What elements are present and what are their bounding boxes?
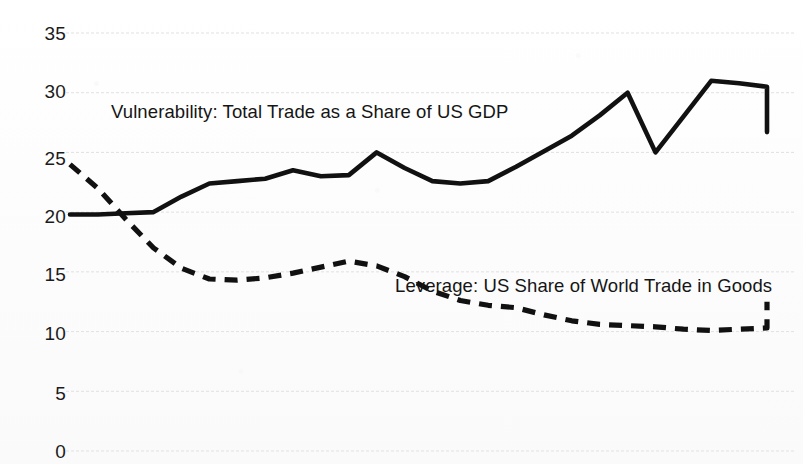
- y-axis-tick-20: 20: [20, 207, 66, 226]
- y-axis-tick-15: 15: [20, 265, 66, 284]
- gridline-group: [66, 33, 795, 451]
- leverage-line: [70, 164, 767, 330]
- y-axis-tick-30: 30: [20, 82, 66, 101]
- y-axis-tick-35: 35: [20, 24, 66, 43]
- vulnerability-series-label: Vulnerability: Total Trade as a Share of…: [111, 103, 509, 122]
- line-chart-plot: [0, 0, 803, 464]
- y-axis-tick-25: 25: [20, 149, 66, 168]
- y-axis-tick-10: 10: [20, 324, 66, 343]
- y-axis-tick-5: 5: [20, 384, 66, 403]
- leverage-series-label: Leverage: US Share of World Trade in Goo…: [395, 277, 772, 296]
- y-axis-tick-0: 0: [20, 442, 66, 461]
- chart-page: 35 30 25 20 15 10 5 0 Vulnerability: Tot…: [0, 0, 803, 464]
